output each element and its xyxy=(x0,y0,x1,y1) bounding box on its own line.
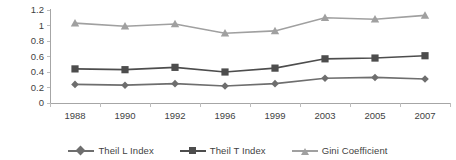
data-point-diamond xyxy=(321,74,329,82)
data-point-diamond xyxy=(171,80,179,88)
legend-item-gini[interactable]: Gini Coefficient xyxy=(292,145,388,156)
data-point-diamond xyxy=(421,75,429,83)
legend-swatch-triangle-icon xyxy=(292,146,318,156)
line-chart: 00.20.40.60.811.219881990199219961999200… xyxy=(0,0,456,160)
x-tick-label: 1992 xyxy=(164,110,185,121)
legend-swatch-diamond-icon xyxy=(68,146,94,156)
series-line-triangle xyxy=(75,15,425,33)
legend-item-theil-t[interactable]: Theil T Index xyxy=(180,145,266,156)
y-tick-label: 0.8 xyxy=(31,35,44,46)
legend-label-theil-l: Theil L Index xyxy=(98,145,153,156)
data-point-square xyxy=(371,54,378,61)
y-tick-label: 0.2 xyxy=(31,82,44,93)
data-point-square xyxy=(121,66,128,73)
data-point-diamond xyxy=(371,74,379,82)
data-point-square xyxy=(271,65,278,72)
data-point-diamond xyxy=(271,80,279,88)
y-tick-label: 1 xyxy=(39,20,44,31)
data-point-diamond xyxy=(221,82,229,90)
chart-legend: Theil L Index Theil T Index Gini Coeffic… xyxy=(0,145,456,156)
y-tick-label: 0 xyxy=(39,97,44,108)
x-tick-label: 1999 xyxy=(264,110,285,121)
data-point-square xyxy=(421,52,428,59)
x-tick-label: 2007 xyxy=(414,110,435,121)
chart-plot-area: 00.20.40.60.811.219881990199219961999200… xyxy=(0,0,456,160)
x-tick-label: 1990 xyxy=(114,110,135,121)
x-tick-label: 1996 xyxy=(214,110,235,121)
legend-item-theil-l[interactable]: Theil L Index xyxy=(68,145,153,156)
legend-swatch-square-icon xyxy=(180,146,206,156)
data-point-square xyxy=(221,68,228,75)
data-point-square xyxy=(321,55,328,62)
x-tick-label: 2003 xyxy=(314,110,335,121)
y-tick-label: 0.4 xyxy=(31,66,44,77)
data-point-diamond xyxy=(71,81,79,89)
data-point-square xyxy=(71,65,78,72)
y-tick-label: 1.2 xyxy=(31,4,44,15)
x-tick-label: 2005 xyxy=(364,110,385,121)
y-tick-label: 0.6 xyxy=(31,51,44,62)
legend-label-theil-t: Theil T Index xyxy=(210,145,266,156)
x-tick-label: 1988 xyxy=(64,110,85,121)
data-point-diamond xyxy=(121,81,129,89)
data-point-square xyxy=(171,64,178,71)
legend-label-gini: Gini Coefficient xyxy=(322,145,388,156)
